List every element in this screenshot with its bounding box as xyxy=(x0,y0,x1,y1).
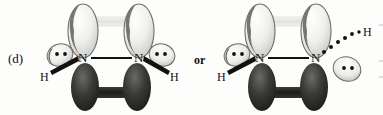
atom-label-h-left-structure-right: H xyxy=(217,71,226,83)
atom-label-n-left-structure-right: N xyxy=(255,51,264,64)
lone-pair-dot xyxy=(55,52,59,56)
lone-pair-dot xyxy=(350,66,354,70)
atom-label-n-left-structure-left: N xyxy=(78,51,87,64)
atom-label-h-right-structure-right: H xyxy=(363,26,372,38)
structure-left xyxy=(44,4,178,111)
orbital-diagram-figure: (d) or N N H H N N H H xyxy=(0,0,383,115)
lone-pair-dot xyxy=(240,52,244,56)
p-orbital-lobe-down-right xyxy=(123,63,151,111)
p-orbital-lobe-down-right xyxy=(300,63,328,111)
atom-label-h-right-structure-left: H xyxy=(170,71,179,83)
atom-label-n-right-structure-right: N xyxy=(311,51,320,64)
p-orbital-lobe-down-left xyxy=(71,63,99,111)
part-label: (d) xyxy=(8,52,23,65)
lone-pair-dot xyxy=(155,52,159,56)
structure-right xyxy=(221,4,364,111)
atom-label-n-right-structure-left: N xyxy=(134,51,143,64)
or-conjunction-label: or xyxy=(194,54,205,66)
lone-pair-dot xyxy=(342,66,346,70)
page-margin-bleed xyxy=(379,24,383,78)
orbital-diagram-canvas xyxy=(0,0,383,115)
lone-pair-lobe-right xyxy=(330,53,365,85)
lone-pair-dot xyxy=(63,52,67,56)
p-orbital-lobe-down-left xyxy=(248,63,276,111)
atom-label-h-left-structure-left: H xyxy=(40,71,49,83)
lone-pair-dot xyxy=(163,52,167,56)
lone-pair-dot xyxy=(232,52,236,56)
